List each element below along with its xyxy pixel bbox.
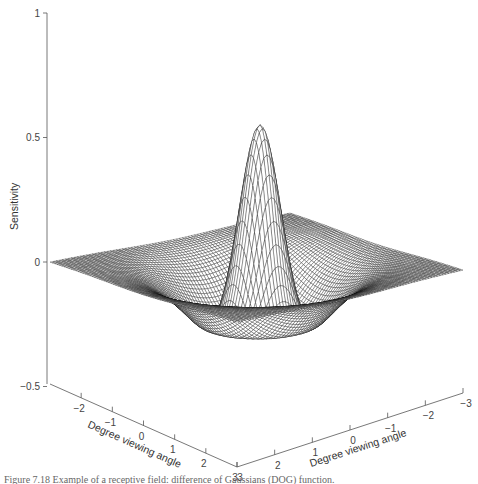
x-ticks: −2−10123 [73, 393, 238, 483]
y-tick-label: −3 [460, 398, 472, 409]
x-axis-label: Degree viewing angle [86, 418, 183, 470]
figure-caption: Figure 7.18 Example of a receptive field… [4, 474, 335, 484]
z-tick-label: 0 [34, 257, 40, 268]
y-axis-label: Degree viewing angle [308, 426, 408, 469]
y-tick-label: −2 [423, 410, 435, 421]
z-axis-label: Sensitivity [8, 182, 20, 230]
x-tick-label: −2 [73, 403, 85, 414]
y-tick-label: 2 [275, 460, 281, 471]
x-tick-label: 2 [201, 458, 207, 469]
z-tick-label: 0.5 [26, 132, 40, 143]
z-tick-label: 1 [34, 8, 40, 19]
y-ticks: 3210−1−2−3 [237, 388, 472, 483]
z-ticks: 10.50−0.5 [20, 8, 47, 393]
dog-surface-mesh [50, 125, 463, 339]
z-tick-label: −0.5 [20, 381, 40, 392]
surface-plot: 10.50−0.5 −2−10123 3210−1−2−3 Sensitivit… [0, 0, 478, 484]
